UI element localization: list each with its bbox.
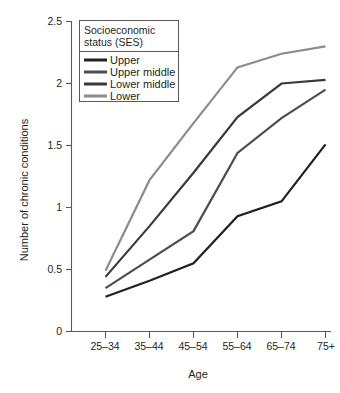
x-tick-label-65-74: 65–74 (266, 340, 295, 352)
legend-title-line-1: Socioeconomic (84, 24, 155, 36)
y-tick-label-1.5: 1.5 (47, 139, 62, 151)
series-line-upper-middle (106, 90, 326, 288)
legend-label-lower: Lower (110, 90, 140, 102)
y-tick-label-0.5: 0.5 (47, 263, 62, 275)
legend-label-upper-middle: Upper middle (110, 66, 175, 78)
x-tick-label-55-64: 55–64 (222, 340, 251, 352)
x-axis-title: Age (188, 368, 208, 380)
x-tick-label-75plus: 75+ (317, 340, 335, 352)
y-tick-label-1: 1 (56, 201, 62, 213)
y-tick-label-0: 0 (56, 325, 62, 337)
y-axis-ticks (66, 22, 72, 332)
legend-title-line-2: status (SES) (84, 36, 143, 48)
legend: Socioeconomic status (SES) Upper Upper m… (80, 21, 179, 103)
x-axis-ticks (106, 332, 326, 339)
y-axis-title: Number of chronic conditions (18, 118, 30, 261)
y-tick-label-2.5: 2.5 (47, 15, 62, 27)
series-line-upper (106, 144, 326, 296)
x-tick-label-45-54: 45–54 (178, 340, 207, 352)
y-axis-tick-labels: 2.5 2 1.5 1 0.5 0 (47, 15, 62, 337)
series-line-lower-middle (106, 80, 326, 277)
y-tick-label-2: 2 (56, 77, 62, 89)
legend-label-upper: Upper (110, 54, 140, 66)
legend-label-lower-middle: Lower middle (110, 78, 175, 90)
chart-figure: 2.5 2 1.5 1 0.5 0 25–34 35–44 45–54 55–6… (0, 0, 340, 393)
line-chart: 2.5 2 1.5 1 0.5 0 25–34 35–44 45–54 55–6… (0, 0, 340, 393)
x-tick-label-25-34: 25–34 (90, 340, 119, 352)
x-axis-tick-labels: 25–34 35–44 45–54 55–64 65–74 75+ (90, 340, 335, 352)
x-tick-label-35-44: 35–44 (134, 340, 163, 352)
